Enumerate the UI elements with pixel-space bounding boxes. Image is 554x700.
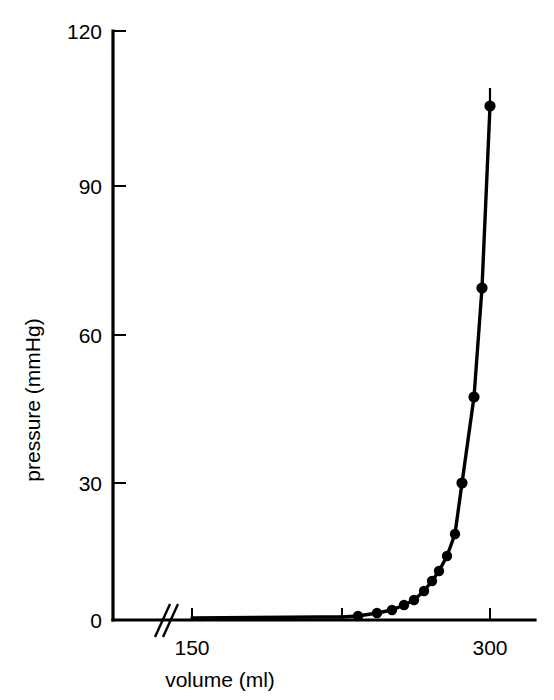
data-point [484, 100, 495, 111]
x-tick-label-150: 150 [174, 636, 209, 659]
data-point [399, 600, 409, 610]
data-curve [192, 106, 490, 618]
x-axis-title: volume (ml) [165, 668, 275, 691]
data-point [450, 529, 460, 539]
data-point [468, 391, 479, 402]
data-point [353, 611, 363, 621]
y-axis-ticks [113, 31, 126, 483]
y-tick-label-30: 30 [79, 472, 102, 495]
data-point [427, 576, 437, 586]
x-tick-label-300: 300 [472, 636, 507, 659]
data-point [442, 551, 452, 561]
data-point [387, 605, 397, 615]
y-tick-label-120: 120 [67, 20, 102, 43]
data-point [434, 566, 444, 576]
data-point [372, 608, 382, 618]
y-axis-title: pressure (mmHg) [21, 318, 44, 481]
y-tick-label-90: 90 [79, 175, 102, 198]
data-point [419, 586, 429, 596]
chart-canvas: 120 90 60 30 0 150 300 volume (ml) press… [0, 0, 554, 700]
data-point [476, 282, 487, 293]
data-markers [353, 100, 496, 621]
y-tick-label-60: 60 [79, 324, 102, 347]
data-point [409, 595, 419, 605]
data-point [456, 477, 467, 488]
pressure-volume-figure: 120 90 60 30 0 150 300 volume (ml) press… [0, 0, 554, 700]
y-tick-label-0: 0 [90, 609, 102, 632]
